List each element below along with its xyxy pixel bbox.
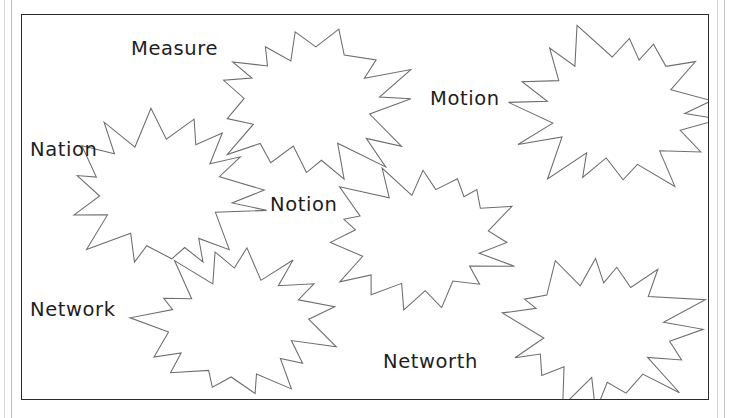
burst-shape-notion bbox=[330, 168, 514, 310]
word-label-networth: Networth bbox=[383, 352, 478, 372]
word-label-motion: Motion bbox=[430, 89, 500, 109]
burst-shape-network bbox=[130, 248, 336, 394]
burst-shape-measure bbox=[224, 29, 411, 179]
worksheet-page: Measure Motion Nation Notion Network Net… bbox=[0, 0, 732, 418]
burst-shape-motion bbox=[508, 25, 720, 186]
word-label-measure: Measure bbox=[131, 39, 218, 59]
word-label-nation: Nation bbox=[30, 140, 98, 160]
burst-shape-nation bbox=[74, 108, 267, 262]
word-label-notion: Notion bbox=[270, 195, 337, 215]
burst-shape-networth bbox=[502, 258, 705, 411]
burst-shapes-canvas bbox=[0, 0, 732, 418]
word-label-network: Network bbox=[30, 300, 116, 320]
